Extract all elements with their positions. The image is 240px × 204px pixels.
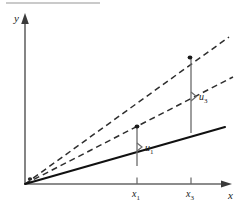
residual-u3-group xyxy=(191,59,197,133)
residual-u3-label: u3 xyxy=(199,91,208,105)
dashed-lines-group xyxy=(25,37,233,184)
figure-canvas: y x x1 x3 u1 xyxy=(0,0,240,204)
residual-u3-label-subscript: 3 xyxy=(204,97,208,105)
fitted-regression-line xyxy=(25,127,225,184)
y-axis-arrowhead xyxy=(21,13,29,24)
tick-label-x3: x3 xyxy=(185,188,194,202)
residual-u1-label-subscript: 1 xyxy=(150,148,154,156)
observation-point-3-marker xyxy=(188,56,193,60)
regression-residuals-figure: y x x1 x3 u1 xyxy=(0,0,240,204)
tick-label-x3-subscript: 3 xyxy=(190,194,194,202)
y-axis-label: y xyxy=(13,12,19,24)
origin-marker xyxy=(28,177,32,181)
residual-u1-group xyxy=(137,128,142,166)
residual-u1-label: u1 xyxy=(145,142,154,156)
observation-points-group xyxy=(135,56,193,129)
x-tick-marks-group xyxy=(137,178,191,185)
dashed-line-upper xyxy=(25,37,229,184)
x-axis-label: x xyxy=(227,189,233,201)
tick-label-x1: x1 xyxy=(131,188,140,202)
observation-point-1-marker xyxy=(135,125,140,129)
tick-label-x1-subscript: 1 xyxy=(136,194,140,202)
x-axis-arrowhead xyxy=(221,180,232,187)
